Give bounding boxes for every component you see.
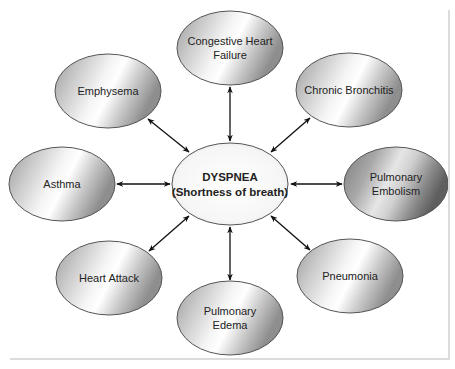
node-label: Embolism [372, 185, 420, 197]
dyspnea-diagram: Congestive HeartFailureChronic Bronchiti… [0, 0, 455, 369]
node-pulmonary-embolism: PulmonaryEmbolism [344, 147, 448, 221]
node-chf: Congestive HeartFailure [177, 11, 283, 85]
frame-right-border [448, 10, 450, 360]
node-label: Asthma [43, 178, 81, 190]
node-emphysema: Emphysema [55, 54, 161, 128]
frame-bottom-border [10, 358, 450, 360]
node-ellipse [177, 11, 283, 85]
node-label: Pulmonary [204, 305, 257, 317]
node-ellipse [177, 281, 283, 355]
center-ellipse [172, 143, 288, 225]
arrow-heart-attack [149, 216, 189, 251]
node-label: Pulmonary [370, 171, 423, 183]
node-ellipse [344, 147, 448, 221]
node-label: Chronic Bronchitis [304, 84, 394, 96]
node-pulmonary-edema: PulmonaryEdema [177, 281, 283, 355]
node-pneumonia: Pneumonia [297, 239, 403, 313]
node-label: Pneumonia [322, 270, 379, 282]
center-node: DYSPNEA (Shortness of breath) [172, 143, 288, 225]
arrow-pneumonia [271, 216, 310, 250]
arrow-chronic-bronchitis [271, 118, 310, 152]
node-label: Emphysema [77, 85, 139, 97]
node-heart-attack: Heart Attack [56, 241, 162, 315]
node-label: Failure [213, 49, 247, 61]
node-label: Heart Attack [79, 272, 139, 284]
node-chronic-bronchitis: Chronic Bronchitis [296, 53, 402, 127]
center-title: DYSPNEA [202, 171, 258, 183]
arrow-emphysema [148, 119, 189, 152]
node-label: Congestive Heart [188, 35, 273, 47]
node-label: Edema [213, 319, 249, 331]
center-subtitle: (Shortness of breath) [172, 186, 288, 198]
diagram-canvas: Congestive HeartFailureChronic Bronchiti… [0, 0, 455, 369]
node-asthma: Asthma [9, 147, 115, 221]
